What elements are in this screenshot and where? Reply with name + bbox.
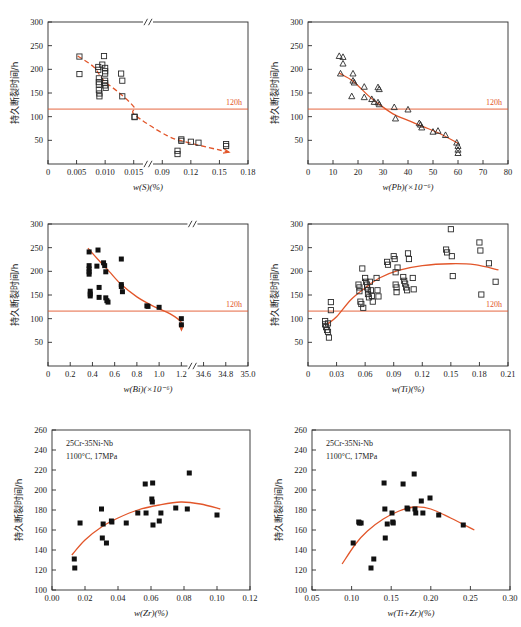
threshold-line-120h: 120h [308, 300, 508, 311]
x-axis-ticks: 00.030.060.090.120.150.180.21 [306, 362, 516, 379]
x-axis-title: w(Ti)(%) [392, 384, 425, 394]
y-axis-ticks: 50100150200250300 [30, 17, 52, 145]
x-axis-title: w(Zr)(%) [134, 608, 168, 618]
data-points [77, 53, 229, 156]
svg-text:180: 180 [294, 505, 307, 515]
svg-text:250: 250 [30, 41, 43, 51]
svg-text:200: 200 [294, 485, 307, 495]
chart-panel-zr: 1001201401601802002202402600.000.020.040… [0, 412, 261, 627]
svg-text:250: 250 [30, 243, 43, 253]
svg-text:0.08: 0.08 [177, 593, 192, 603]
chart-panel-ti: 5010015020025030000.030.060.090.120.150.… [260, 208, 521, 406]
svg-text:100: 100 [30, 314, 43, 324]
svg-text:20: 20 [354, 167, 363, 177]
svg-text:0.010: 0.010 [96, 167, 115, 177]
svg-text:1100°C, 17MPa: 1100°C, 17MPa [326, 452, 378, 461]
data-points [323, 227, 499, 341]
svg-text:0.06: 0.06 [144, 593, 159, 603]
svg-text:10: 10 [329, 167, 338, 177]
svg-text:50: 50 [35, 135, 44, 145]
svg-text:240: 240 [34, 445, 47, 455]
trend-curve [342, 507, 474, 564]
svg-text:0.015: 0.015 [124, 167, 143, 177]
chart-panel-pb: 5010015020025030001020304050607080120hw(… [260, 4, 521, 204]
svg-text:0.21: 0.21 [501, 369, 516, 379]
y-axis-title: 持久断裂时间/h [269, 62, 280, 125]
svg-text:120: 120 [34, 565, 47, 575]
svg-text:0.10: 0.10 [210, 593, 225, 603]
svg-text:140: 140 [294, 545, 307, 555]
threshold-label: 120h [486, 98, 502, 107]
svg-text:0.18: 0.18 [241, 167, 256, 177]
svg-text:0.6: 0.6 [109, 369, 120, 379]
y-axis-title: 持久断裂时间/h [9, 62, 20, 125]
threshold-line-120h: 120h [308, 98, 508, 109]
svg-text:160: 160 [294, 525, 307, 535]
plot-annotation: 25Cr-35Ni-Nb1100°C, 17MPa [326, 439, 378, 461]
svg-text:50: 50 [295, 337, 304, 347]
svg-text:0.4: 0.4 [87, 369, 98, 379]
y-axis-ticks: 100120140160180200220240260 [34, 425, 56, 595]
y-axis-ticks: 50100150200250300 [30, 219, 52, 347]
svg-text:0.18: 0.18 [472, 369, 487, 379]
y-axis-ticks: 50100150200250300 [290, 219, 312, 347]
x-axis-ticks: 0.000.020.040.060.080.100.12 [45, 586, 258, 603]
svg-text:300: 300 [30, 219, 43, 229]
svg-text:0: 0 [46, 369, 50, 379]
svg-text:0.15: 0.15 [443, 369, 458, 379]
svg-text:0.09: 0.09 [155, 167, 170, 177]
svg-text:0.15: 0.15 [212, 167, 227, 177]
svg-text:0.05: 0.05 [305, 593, 320, 603]
svg-text:260: 260 [34, 425, 47, 435]
svg-text:0.20: 0.20 [423, 593, 438, 603]
svg-text:0.30: 0.30 [503, 593, 518, 603]
y-axis-ticks: 50100150200250300 [290, 17, 312, 145]
svg-text:0.25: 0.25 [463, 593, 478, 603]
svg-text:150: 150 [30, 290, 43, 300]
chart-panel-s: 5010015020025030000.0050.0100.0150.090.1… [0, 4, 261, 204]
svg-text:30: 30 [379, 167, 388, 177]
svg-text:70: 70 [479, 167, 488, 177]
chart-panel-bi: 5010015020025030000.20.40.60.81.01.234.6… [0, 208, 261, 406]
trend-curve [72, 502, 221, 555]
x-axis-ticks: 0.050.100.150.200.250.30 [305, 586, 518, 603]
svg-text:140: 140 [34, 545, 47, 555]
svg-text:0.03: 0.03 [329, 369, 344, 379]
svg-text:220: 220 [294, 465, 307, 475]
threshold-label: 120h [226, 98, 242, 107]
x-axis-ticks: 00.20.40.60.81.01.234.634.835.0 [46, 362, 256, 379]
trend-curve [78, 56, 229, 152]
axis-break-mark [143, 19, 153, 167]
svg-text:180: 180 [34, 505, 47, 515]
axis-break-mark [187, 221, 197, 369]
x-axis-title: w(S)(%) [133, 182, 163, 192]
plot-frame [48, 22, 248, 164]
x-axis-title: w(Ti+Zr)(%) [387, 608, 434, 618]
x-axis-title: w(Pb)(×10⁻⁶) [382, 182, 433, 192]
svg-text:0.02: 0.02 [78, 593, 93, 603]
plot-frame [48, 224, 248, 366]
svg-text:0.8: 0.8 [132, 369, 143, 379]
svg-text:300: 300 [290, 17, 303, 27]
svg-text:60: 60 [454, 167, 463, 177]
x-axis-ticks: 01020304050607080 [306, 160, 512, 177]
data-points [336, 53, 461, 156]
svg-text:0.00: 0.00 [45, 593, 60, 603]
svg-text:0: 0 [46, 167, 50, 177]
svg-text:260: 260 [294, 425, 307, 435]
svg-text:40: 40 [404, 167, 413, 177]
svg-text:0: 0 [306, 369, 310, 379]
svg-text:0.15: 0.15 [384, 593, 399, 603]
svg-text:0.12: 0.12 [183, 167, 198, 177]
svg-text:0.06: 0.06 [358, 369, 373, 379]
svg-text:1.2: 1.2 [176, 369, 187, 379]
svg-text:1.0: 1.0 [154, 369, 165, 379]
svg-text:150: 150 [290, 88, 303, 98]
svg-text:25Cr-35Ni-Nb: 25Cr-35Ni-Nb [66, 439, 113, 448]
svg-text:300: 300 [30, 17, 43, 27]
svg-text:34.8: 34.8 [218, 369, 233, 379]
svg-text:150: 150 [30, 88, 43, 98]
svg-text:250: 250 [290, 41, 303, 51]
data-points [72, 471, 220, 571]
svg-text:25Cr-35Ni-Nb: 25Cr-35Ni-Nb [326, 439, 373, 448]
